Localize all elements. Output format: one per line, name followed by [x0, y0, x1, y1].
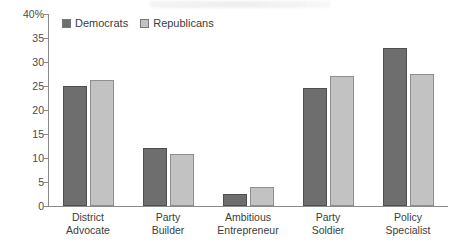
- bar-group: [208, 14, 288, 206]
- bar[interactable]: [383, 48, 407, 206]
- y-axis-tick: [43, 38, 48, 39]
- y-axis-tick: [43, 62, 48, 63]
- bar[interactable]: [250, 187, 274, 206]
- y-axis-tick: [43, 86, 48, 87]
- bar[interactable]: [170, 154, 194, 206]
- y-axis-tick: [43, 182, 48, 183]
- x-axis-category-label: Ambitious Entrepreneur: [208, 211, 288, 236]
- plot-area: [48, 14, 458, 206]
- x-axis-labels: District AdvocateParty BuilderAmbitious …: [48, 211, 448, 249]
- bar[interactable]: [143, 148, 167, 206]
- x-axis-category-label: District Advocate: [48, 211, 128, 236]
- y-axis-tick: [43, 110, 48, 111]
- bar-group: [368, 14, 448, 206]
- bar[interactable]: [63, 86, 87, 206]
- x-axis-category-label: Party Builder: [128, 211, 208, 236]
- x-axis-line: [48, 206, 448, 207]
- bar-group: [128, 14, 208, 206]
- bar[interactable]: [223, 194, 247, 206]
- bar[interactable]: [410, 74, 434, 206]
- y-axis-tick: [43, 14, 48, 15]
- y-axis-tick: [43, 158, 48, 159]
- y-axis-tick-label: 40%: [23, 8, 44, 20]
- x-axis-category-label: Party Soldier: [288, 211, 368, 236]
- y-axis-labels: 40%35302520151050: [0, 14, 44, 206]
- scan-artifact: [150, 1, 330, 8]
- bar[interactable]: [90, 80, 114, 206]
- bar[interactable]: [303, 88, 327, 206]
- bar[interactable]: [330, 76, 354, 206]
- bar-chart: 40%35302520151050 DemocratsRepublicans D…: [0, 0, 458, 250]
- y-axis-tick: [43, 134, 48, 135]
- x-axis-category-label: Policy Specialist: [368, 211, 448, 236]
- y-axis-tick: [43, 206, 48, 207]
- bar-group: [288, 14, 368, 206]
- bar-groups: [48, 14, 448, 206]
- bar-group: [48, 14, 128, 206]
